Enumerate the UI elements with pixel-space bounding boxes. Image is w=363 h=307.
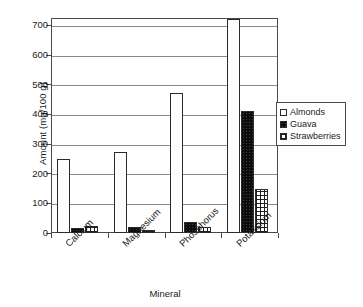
y-tick-label: 400 xyxy=(12,109,48,118)
x-tick-mark xyxy=(165,233,166,238)
bar-almonds-calcium xyxy=(57,159,70,233)
legend-label: Guava xyxy=(290,120,317,129)
legend-item-strawberries: Strawberries xyxy=(280,130,341,142)
bars-layer xyxy=(51,18,278,233)
x-tick-mark xyxy=(51,233,52,238)
legend-item-almonds: Almonds xyxy=(280,106,341,118)
chart-legend: AlmondsGuavaStrawberries xyxy=(276,102,346,146)
y-tick-label: 700 xyxy=(12,20,48,29)
x-tick-mark xyxy=(221,233,222,238)
legend-swatch-icon-guava xyxy=(280,121,287,128)
legend-label: Almonds xyxy=(290,108,325,117)
y-tick-label: 500 xyxy=(12,80,48,89)
legend-swatch-icon-almonds xyxy=(280,109,287,116)
bar-almonds-magnesium xyxy=(114,152,127,233)
x-axis-title: Mineral xyxy=(0,288,330,299)
y-tick-label: 100 xyxy=(12,198,48,207)
y-tick-label: 600 xyxy=(12,50,48,59)
bar-almonds-potassium xyxy=(227,19,240,233)
legend-label: Strawberries xyxy=(290,132,341,141)
y-tick-label: 0 xyxy=(12,228,48,237)
x-tick-mark xyxy=(108,233,109,238)
bar-chart-figure: Amount (mg/100 g) 0100200300400500600700… xyxy=(0,0,363,307)
y-tick-label: 300 xyxy=(12,139,48,148)
y-tick-label: 200 xyxy=(12,169,48,178)
bar-guava-potassium xyxy=(241,111,254,233)
legend-item-guava: Guava xyxy=(280,118,341,130)
bar-almonds-phosphorus xyxy=(170,93,183,233)
y-axis-title: Amount (mg/100 g) xyxy=(37,34,48,214)
x-tick-mark xyxy=(278,233,279,238)
legend-swatch-icon-strawberries xyxy=(280,133,287,140)
